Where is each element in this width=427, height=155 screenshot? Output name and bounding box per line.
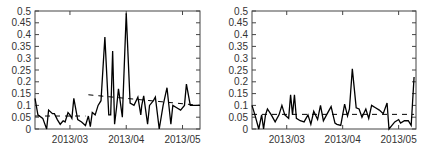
y-tick-label: 0.2 (234, 76, 248, 87)
x-tick-label: 2013/05 (381, 134, 418, 145)
y-tick-label: 0.4 (234, 29, 248, 40)
y-tick-label: 0.25 (12, 65, 32, 76)
y-tick-label: 0.45 (229, 17, 249, 28)
y-tick-label: 0.15 (229, 88, 249, 99)
y-tick-label: 0 (25, 124, 31, 135)
y-tick-label: 0.4 (17, 29, 31, 40)
chart-left: 00.050.10.150.20.250.30.350.40.450.52013… (0, 0, 213, 155)
y-tick-label: 0.45 (12, 17, 32, 28)
y-tick-label: 0.1 (17, 100, 31, 111)
y-tick-label: 0.3 (17, 53, 31, 64)
y-tick-label: 0.35 (12, 41, 32, 52)
chart-right-svg: 00.050.10.150.20.250.30.350.40.450.52013… (213, 0, 427, 155)
x-tick-label: 2013/03 (52, 134, 89, 145)
y-tick-label: 0.05 (12, 112, 32, 123)
observed-line (252, 69, 414, 129)
x-tick-label: 2013/04 (108, 134, 145, 145)
y-tick-label: 0.1 (234, 100, 248, 111)
x-tick-label: 2013/03 (269, 134, 306, 145)
y-tick-label: 0.5 (17, 6, 31, 17)
x-tick-label: 2013/05 (164, 134, 201, 145)
plot-frame (35, 11, 200, 129)
y-tick-label: 0.5 (234, 6, 248, 17)
y-tick-label: 0 (242, 124, 248, 135)
y-tick-label: 0.25 (229, 65, 249, 76)
y-tick-label: 0.3 (234, 53, 248, 64)
chart-left-svg: 00.050.10.150.20.250.30.350.40.450.52013… (0, 0, 213, 155)
y-tick-label: 0.15 (12, 88, 32, 99)
y-tick-label: 0.2 (17, 76, 31, 87)
x-tick-label: 2013/04 (325, 134, 362, 145)
y-tick-label: 0.35 (229, 41, 249, 52)
y-tick-label: 0.05 (229, 112, 249, 123)
chart-right: 00.050.10.150.20.250.30.350.40.450.52013… (213, 0, 427, 155)
plot-frame (252, 11, 416, 129)
observed-line (35, 13, 200, 129)
